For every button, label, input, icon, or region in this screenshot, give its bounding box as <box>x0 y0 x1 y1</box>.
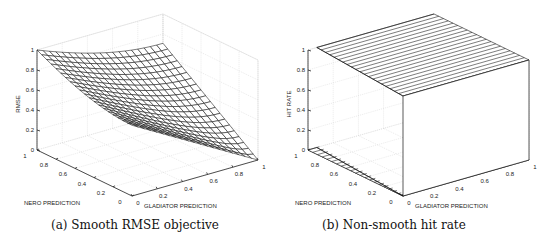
nero-tick-label: 0 <box>389 199 393 205</box>
nero-tick-label: 1 <box>23 153 27 159</box>
nero-axis-label: NERO PREDICTION <box>24 200 80 206</box>
caption-a: (a) Smooth RMSE objective <box>51 218 219 232</box>
z-tick-label: 0.2 <box>297 127 306 133</box>
hit-rate-surface-plot: 00.20.40.60.8100.20.40.60.8100.20.40.60.… <box>286 14 537 209</box>
gladiator-tick-label: 0.8 <box>506 171 515 177</box>
z-axis-label: HIT RATE <box>286 91 292 118</box>
z-tick-label: 1 <box>302 47 306 53</box>
gladiator-tick-label: 1 <box>533 164 537 170</box>
z-tick-label: 0.4 <box>26 107 35 113</box>
nero-tick-label: 0.8 <box>40 162 49 168</box>
nero-tick-label: 0 <box>118 199 122 205</box>
z-tick-label: 0 <box>31 147 35 153</box>
gladiator-tick-label: 0.4 <box>455 186 464 192</box>
z-axis-label: RMSE <box>15 95 21 112</box>
nero-axis-label: NERO PREDICTION <box>295 200 351 206</box>
z-tick-label: 0.2 <box>26 127 35 133</box>
z-tick-label: 0.8 <box>26 67 35 73</box>
gladiator-tick-label: 0.6 <box>209 178 218 184</box>
gladiator-tick-label: 0 <box>407 200 411 206</box>
z-tick-label: 0.8 <box>297 67 306 73</box>
nero-tick-label: 0.4 <box>78 181 87 187</box>
rmse-surface-mesh <box>37 43 258 160</box>
z-tick-label: 1 <box>31 47 35 53</box>
nero-tick-label: 0.6 <box>59 171 68 177</box>
nero-tick-label: 0.6 <box>330 171 339 177</box>
nero-tick-label: 0.4 <box>349 181 358 187</box>
nero-tick-label: 0.8 <box>311 162 320 168</box>
gladiator-tick-label: 0.8 <box>235 171 244 177</box>
nero-tick-label: 0.2 <box>368 190 377 196</box>
gladiator-tick-label: 0 <box>136 200 140 206</box>
z-tick-label: 0.6 <box>26 87 35 93</box>
z-tick-label: 0.6 <box>297 87 306 93</box>
gladiator-tick-label: 0.2 <box>430 193 439 199</box>
z-tick-label: 0.4 <box>297 107 306 113</box>
gladiator-tick-label: 0.2 <box>159 193 168 199</box>
gladiator-tick-label: 0.6 <box>480 178 489 184</box>
nero-tick-label: 1 <box>294 153 298 159</box>
nero-tick-label: 0.2 <box>97 190 106 196</box>
caption-b: (b) Non-smooth hit rate <box>322 218 466 232</box>
gladiator-axis-label: GLADIATOR PREDICTION <box>144 203 217 209</box>
figure-canvas: 00.20.40.60.8100.20.40.60.8100.20.40.60.… <box>0 0 547 246</box>
z-tick-label: 0 <box>302 147 306 153</box>
gladiator-axis-label: GLADIATOR PREDICTION <box>415 203 488 209</box>
rmse-surface-plot: 00.20.40.60.8100.20.40.60.8100.20.40.60.… <box>15 14 266 209</box>
gladiator-tick-label: 1 <box>262 164 266 170</box>
hit-rate-surface-mesh <box>308 14 529 196</box>
gladiator-tick-label: 0.4 <box>184 186 193 192</box>
